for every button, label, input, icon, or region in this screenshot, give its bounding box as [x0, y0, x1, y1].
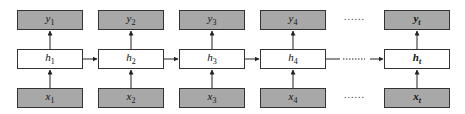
label-sub: t	[418, 19, 420, 28]
label-sub: 4	[293, 19, 297, 28]
label-sub: t	[419, 58, 421, 67]
hidden-node-h1: h1	[17, 49, 83, 69]
label-sub: 3	[212, 97, 216, 106]
input-node-x4: x4	[260, 88, 326, 108]
label-sub: t	[419, 97, 421, 106]
hidden-node-ht: ht	[384, 49, 450, 69]
label-sub: 4	[293, 97, 297, 106]
input-node-x2: x2	[98, 88, 164, 108]
label-sub: 1	[50, 97, 54, 106]
output-node-y2: y2	[98, 10, 164, 30]
output-node-y1: y1	[17, 10, 83, 30]
label-sub: 4	[294, 58, 298, 67]
input-node-x3: x3	[179, 88, 245, 108]
input-node-x1: x1	[17, 88, 83, 108]
output-node-yt: yt	[384, 10, 450, 30]
label-sub: 2	[131, 97, 135, 106]
output-node-y4: y4	[260, 10, 326, 30]
input-node-xt: xt	[384, 88, 450, 108]
label-sub: 3	[212, 19, 216, 28]
ellipsis-output: ......	[344, 11, 365, 22]
output-node-y3: y3	[179, 10, 245, 30]
label-sub: 2	[132, 58, 136, 67]
hidden-node-h2: h2	[98, 49, 164, 69]
ellipsis-input: ......	[344, 89, 365, 100]
label-sub: 1	[50, 19, 54, 28]
label-sub: 1	[51, 58, 55, 67]
label-sub: 3	[213, 58, 217, 67]
label-sub: 2	[131, 19, 135, 28]
hidden-node-h4: h4	[260, 49, 326, 69]
hidden-node-h3: h3	[179, 49, 245, 69]
